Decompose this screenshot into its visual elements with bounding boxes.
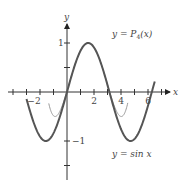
x-axis-label: x	[173, 87, 178, 97]
y-tick-label-1: 1	[58, 38, 64, 48]
x-tick-label-2: 2	[91, 96, 97, 106]
x-tick-label-4: 4	[118, 96, 124, 106]
x-tick-label-neg2: −2	[27, 96, 40, 106]
x-tick-label-6: 6	[145, 96, 151, 106]
y-axis-label: y	[63, 12, 70, 22]
y-tick-label-neg1: −1	[72, 136, 85, 146]
p4-curve-label: y = P4(x)	[111, 29, 153, 40]
p4-curve	[49, 43, 128, 117]
sin-curve-label: y = sin x	[111, 149, 152, 159]
plot-canvas: x y −2 2 4 6 1 −1 y = P4(x) y = sin x	[0, 0, 185, 190]
